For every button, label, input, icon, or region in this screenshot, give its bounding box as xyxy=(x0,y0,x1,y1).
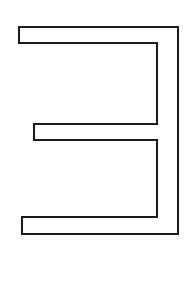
reversed-e-diagram xyxy=(0,0,194,289)
